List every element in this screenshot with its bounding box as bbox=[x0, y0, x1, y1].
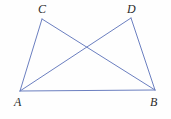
vertex-label-d: D bbox=[127, 3, 136, 15]
geometry-figure: C D A B bbox=[0, 0, 171, 119]
segment-cb bbox=[42, 19, 155, 90]
vertex-label-c: C bbox=[38, 3, 46, 15]
vertex-label-b: B bbox=[150, 96, 157, 108]
figure-canvas bbox=[0, 0, 171, 119]
segment-db bbox=[131, 18, 155, 90]
segment-ad bbox=[20, 18, 131, 91]
segment-group bbox=[20, 18, 155, 91]
segment-ab bbox=[20, 90, 155, 91]
vertex-label-a: A bbox=[14, 96, 21, 108]
segment-ac bbox=[20, 19, 42, 91]
